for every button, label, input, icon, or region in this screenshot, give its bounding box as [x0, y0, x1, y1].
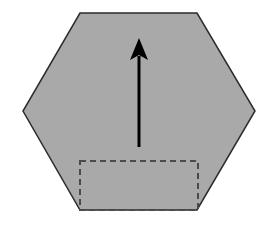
hexagon-diagram	[0, 0, 274, 226]
diagram-canvas	[0, 0, 274, 226]
